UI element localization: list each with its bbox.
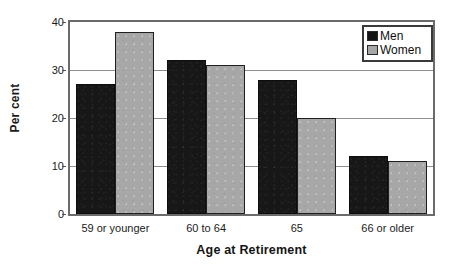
bar-men-3 [258, 80, 297, 214]
legend-item-men: Men [367, 29, 428, 43]
x-tick-label: 66 or older [361, 222, 414, 234]
x-tick-label: 65 [291, 222, 303, 234]
bar-women-3 [297, 118, 336, 214]
legend-item-women: Women [367, 43, 428, 57]
legend-label-men: Men [380, 30, 403, 42]
y-tick-label: 30 [30, 65, 64, 76]
bar-chart-figure: Per cent 010203040 Men Women 59 or young… [0, 0, 452, 269]
black-square-icon [367, 31, 378, 41]
x-tick-label: 59 or younger [81, 222, 149, 234]
y-tick-label: 0 [30, 209, 64, 220]
x-axis-title: Age at Retirement [68, 243, 435, 257]
y-tick-mark [62, 70, 66, 71]
bar-men-1 [76, 84, 115, 214]
chart-legend: Men Women [362, 25, 433, 62]
bar-men-2 [167, 60, 206, 214]
bar-men-4 [349, 156, 388, 214]
y-axis-ticks: 010203040 [28, 0, 64, 269]
y-axis-title-text: Per cent [8, 84, 22, 133]
bar-women-4 [388, 161, 427, 214]
y-tick-mark [62, 22, 66, 23]
y-tick-label: 10 [30, 161, 64, 172]
x-axis-tick-labels: 59 or younger60 to 646566 or older [68, 222, 435, 238]
legend-label-women: Women [380, 44, 421, 56]
y-axis-title: Per cent [2, 0, 28, 216]
y-tick-label: 40 [30, 17, 64, 28]
bar-women-2 [206, 65, 245, 214]
gray-square-icon [367, 45, 378, 55]
bar-women-1 [115, 32, 154, 214]
x-tick-label: 60 to 64 [186, 222, 226, 234]
y-tick-mark [62, 166, 66, 167]
y-tick-label: 20 [30, 113, 64, 124]
y-tick-mark [62, 214, 66, 215]
y-tick-mark [62, 118, 66, 119]
